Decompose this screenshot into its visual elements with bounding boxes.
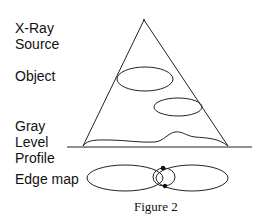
figure-caption: Figure 2 bbox=[134, 199, 178, 215]
beam-cone bbox=[83, 20, 228, 146]
edge-map-left-ellipse bbox=[87, 165, 163, 191]
edge-point-bottom bbox=[163, 184, 167, 188]
xray-diagram bbox=[0, 0, 269, 219]
object-ellipse-2 bbox=[154, 98, 202, 116]
edge-point-top bbox=[161, 166, 165, 170]
xray-source-point bbox=[143, 19, 145, 21]
object-ellipse-1 bbox=[117, 67, 173, 91]
gray-level-profile-curve bbox=[83, 132, 228, 146]
